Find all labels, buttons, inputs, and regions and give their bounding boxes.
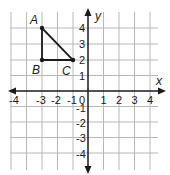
- point-b-label: B: [32, 63, 40, 77]
- x-tick: -4: [9, 94, 19, 106]
- arrow-right-icon: [158, 88, 166, 95]
- y-tick: 3: [79, 38, 85, 50]
- y-tick: 2: [79, 54, 85, 66]
- triangle-abc: A B C: [29, 13, 75, 78]
- x-axis: [8, 88, 166, 95]
- y-tick: -4: [76, 148, 86, 160]
- y-tick: -1: [76, 102, 86, 114]
- x-tick: 3: [131, 94, 137, 106]
- y-tick: 1: [79, 70, 85, 82]
- point-b: [40, 58, 44, 62]
- x-axis-label: x: [155, 74, 163, 88]
- point-c: [71, 58, 75, 62]
- y-tick: 4: [79, 22, 85, 34]
- y-axis-label: y: [94, 9, 102, 23]
- y-tick: -3: [76, 132, 86, 144]
- arrow-down-icon: [85, 166, 92, 174]
- point-a: [40, 26, 44, 30]
- x-tick: -2: [51, 94, 61, 106]
- x-tick: 1: [100, 94, 106, 106]
- x-tick: 2: [116, 94, 122, 106]
- arrow-up-icon: [85, 8, 92, 16]
- point-a-label: A: [29, 13, 38, 27]
- y-tick: -2: [76, 117, 86, 129]
- x-tick: 4: [147, 94, 153, 106]
- x-tick: -3: [36, 94, 46, 106]
- coordinate-plane: y x -4 -3 -2 -1 0 1 2 3 4 4 3 2 1 -1 -2 …: [0, 0, 170, 175]
- point-c-label: C: [62, 64, 71, 78]
